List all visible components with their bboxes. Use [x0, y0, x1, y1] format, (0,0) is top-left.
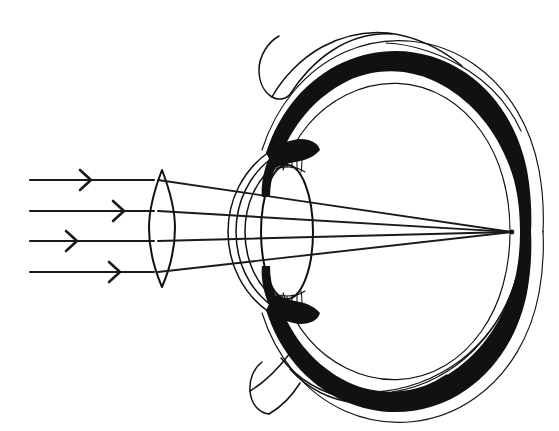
fovea-focal-point	[510, 230, 515, 235]
eye-optics-figure: Schematic cross-section of the human eye…	[0, 0, 559, 431]
focal-point-marker	[510, 230, 515, 235]
eye-diagram-canvas: Schematic cross-section of the human eye…	[0, 0, 559, 431]
